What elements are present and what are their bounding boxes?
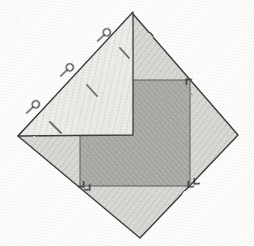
q-mark-1-stem	[98, 34, 105, 41]
q-mark-3-stem	[27, 106, 34, 113]
q-mark-2-stem	[61, 69, 68, 76]
geometry-sketch	[0, 0, 254, 246]
sketch-canvas	[0, 0, 254, 246]
triangle-shape	[18, 12, 133, 136]
q-mark-2	[58, 62, 75, 79]
